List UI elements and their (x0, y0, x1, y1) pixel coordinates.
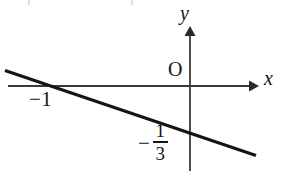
y-intercept-fraction: 1 3 (153, 121, 168, 163)
y-intercept-label: − 1 3 (138, 121, 168, 163)
plotted-line (5, 71, 256, 156)
fraction-numerator: 1 (154, 121, 168, 140)
x-axis-arrowhead-icon (249, 81, 259, 92)
y-axis-arrowhead-icon (185, 26, 196, 36)
x-axis-label: x (264, 68, 273, 88)
x-intercept-label: −1 (29, 89, 52, 110)
y-intercept-minus-sign: − (138, 133, 150, 154)
fraction-denominator: 3 (154, 144, 168, 163)
y-axis-label: y (180, 3, 189, 23)
origin-label: O (168, 59, 182, 79)
math-figure-coordinate-plane: y x O −1 − 1 3 (0, 0, 288, 173)
